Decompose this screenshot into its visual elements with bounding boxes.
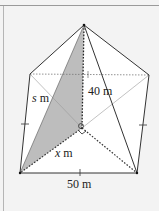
slant-edge-unit: m xyxy=(37,91,50,105)
height-label: 40 m xyxy=(88,84,113,98)
pyramid-diagram: 40 m s m x m 50 m xyxy=(0,0,159,211)
half-diagonal-label: x m xyxy=(54,146,73,160)
half-diagonal-unit: m xyxy=(60,146,73,160)
apex-vertex xyxy=(83,24,86,27)
front-left-vertex xyxy=(19,172,21,174)
diagram-frame: 40 m s m x m 50 m xyxy=(0,0,159,211)
front-right-vertex xyxy=(136,172,138,174)
slant-edge-label: s m xyxy=(32,91,50,105)
base-side-label: 50 m xyxy=(67,177,92,191)
